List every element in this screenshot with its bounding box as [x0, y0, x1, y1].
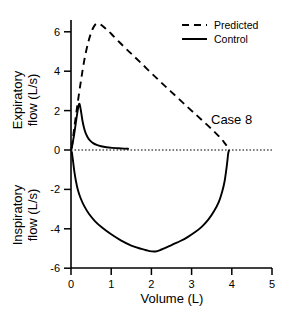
- y-tick-label: 2: [54, 105, 60, 117]
- y-tick-label: -6: [50, 262, 60, 274]
- x-tick-label: 5: [269, 278, 275, 290]
- chart-annotation-case: Case 8: [211, 112, 252, 127]
- y-axis-label-expiratory: Expiratory flow (L/s): [10, 70, 40, 129]
- y-axis-label-expiratory-line2: flow (L/s): [25, 74, 40, 127]
- x-axis-ticks: 012345: [68, 268, 275, 290]
- x-tick-label: 2: [148, 278, 154, 290]
- x-tick-label: 1: [108, 278, 114, 290]
- y-axis-label-inspiratory: Inspiratory flow (L/s): [10, 184, 40, 245]
- x-tick-label: 3: [189, 278, 195, 290]
- series-line-predicted: [72, 24, 230, 150]
- series-line-control-expiratory: [71, 104, 128, 149]
- y-tick-label: 4: [54, 65, 60, 77]
- y-tick-label: 0: [54, 144, 60, 156]
- x-tick-label: 0: [68, 278, 74, 290]
- y-axis-label-inspiratory-line2: flow (L/s): [25, 189, 40, 242]
- y-tick-label: -2: [50, 183, 60, 195]
- y-tick-label: -4: [50, 223, 60, 235]
- y-tick-label: 6: [54, 26, 60, 38]
- legend-label-predicted: Predicted: [214, 19, 259, 31]
- x-axis-label: Volume (L): [141, 291, 204, 306]
- chart-legend: Predicted Control: [182, 19, 259, 45]
- x-tick-label: 4: [229, 278, 235, 290]
- y-axis-ticks: -6-4-20246: [50, 26, 71, 274]
- series-line-control-inspiratory: [72, 150, 229, 251]
- y-axis-label-inspiratory-line1: Inspiratory: [10, 184, 25, 245]
- y-axis-label-expiratory-line1: Expiratory: [10, 70, 25, 129]
- chart-canvas: -6-4-20246 012345 Predicted Control Case…: [0, 0, 288, 316]
- legend-label-control: Control: [214, 33, 248, 45]
- flow-volume-chart: -6-4-20246 012345 Predicted Control Case…: [0, 0, 288, 316]
